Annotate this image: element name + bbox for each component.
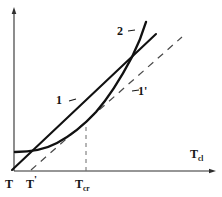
curve-1-prime-dashed-line	[31, 37, 182, 170]
curve-1-label-text: 1	[56, 93, 62, 107]
curves-group	[12, 22, 156, 170]
curve-1-leader	[69, 99, 76, 101]
curve-1-prime-label-text: 1'	[138, 84, 147, 98]
tick-label-Tcr-base: T	[75, 177, 83, 191]
tick-label-Tp-base: T	[26, 177, 34, 191]
tick-label-Tcr: Tcr	[75, 174, 90, 193]
curve-2-label: 2	[117, 25, 123, 37]
tick-label-T-prime-mark: T'	[26, 174, 37, 193]
figure-root: T T' Tcr Tcl 1 2 1'	[0, 0, 222, 197]
figure-canvas	[0, 0, 222, 197]
x-axis-label-sub: cl	[198, 154, 203, 163]
tick-label-Tp-prime: '	[34, 173, 37, 185]
curve-1-label: 1	[56, 94, 62, 106]
x-axis-label-base: T	[190, 147, 198, 161]
tick-label-Tcr-sub: cr	[83, 184, 90, 193]
curve-2-leader	[128, 30, 135, 31]
curve-1-prime-label: 1'	[138, 85, 147, 97]
x-axis-arrowhead	[209, 169, 216, 174]
y-axis-arrowhead	[12, 7, 17, 14]
tick-label-T-base: T	[5, 177, 13, 191]
curve-2-label-text: 2	[117, 24, 123, 38]
x-axis-label: Tcl	[190, 148, 203, 163]
tick-label-T: T	[5, 174, 13, 193]
curve-2-path	[15, 22, 146, 152]
dashed-guides-group	[31, 37, 182, 171]
